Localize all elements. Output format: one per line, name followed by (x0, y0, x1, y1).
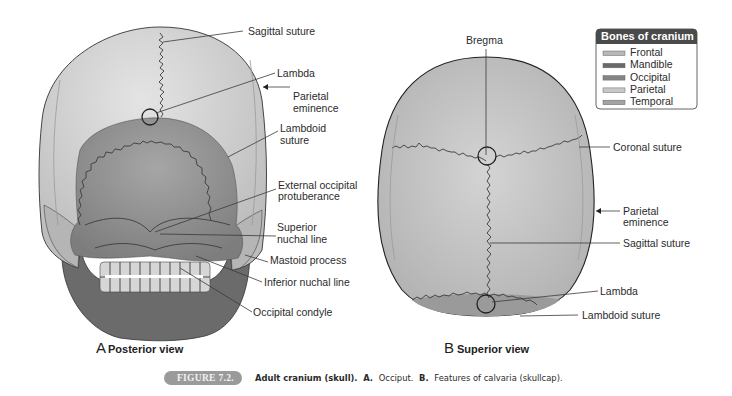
caption-text: Adult cranium (skull). A. Occiput. B. Fe… (255, 373, 563, 383)
label-inferior-nuchal-line: Inferior nuchal line (264, 276, 350, 288)
label-parietal-eminence-a-line2: eminence (293, 102, 339, 114)
label-occipital-condyle: Occipital condyle (253, 306, 333, 318)
figure-canvas: Sagittal suture Lambda Parietal eminence… (0, 0, 732, 396)
caption-title: Adult cranium (skull). (255, 373, 358, 383)
label-lambdoid-suture-b: Lambdoid suture (582, 309, 660, 321)
legend-swatch-occipital (603, 76, 625, 81)
caption-part-a-text: Occiput. (379, 373, 414, 383)
legend-title: Bones of cranium (601, 30, 694, 42)
label-parietal-eminence-a-line1: Parietal (293, 90, 329, 102)
label-lambdoid-suture-a-line1: Lambdoid (280, 122, 326, 134)
legend-swatch-temporal (603, 100, 625, 105)
legend-item-parietal: Parietal (630, 83, 666, 95)
legend-swatch-parietal (603, 88, 625, 93)
figure-caption: FIGURE 7.2. Adult cranium (skull). A. Oc… (164, 371, 563, 385)
posterior-view-illustration (39, 27, 267, 341)
legend-item-frontal: Frontal (630, 46, 663, 58)
label-bregma: Bregma (466, 34, 503, 46)
label-sagittal-suture-b: Sagittal suture (623, 237, 690, 249)
label-external-occipital-protuberance-line2: protuberance (278, 190, 340, 202)
label-superior-nuchal-line-line2: nuchal line (277, 233, 327, 245)
figure-number: FIGURE 7.2. (177, 373, 234, 383)
label-parietal-eminence-b-line2: eminence (623, 216, 669, 228)
panel-a-title: Posterior view (108, 343, 184, 355)
legend-swatch-mandible (603, 63, 625, 68)
panel-a-letter: A (96, 339, 106, 356)
legend-item-temporal: Temporal (630, 95, 673, 107)
teeth (100, 262, 210, 292)
label-lambda-a: Lambda (277, 67, 315, 79)
legend-item-occipital: Occipital (630, 71, 670, 83)
label-superior-nuchal-line-line1: Superior (277, 221, 317, 233)
label-coronal-suture: Coronal suture (613, 141, 682, 153)
panel-b-letter: B (444, 339, 454, 356)
panel-b-title: Superior view (457, 343, 530, 355)
caption-part-b-text: Features of calvaria (skullcap). (434, 373, 562, 383)
legend-box: Bones of cranium FrontalMandibleOccipita… (596, 29, 697, 109)
legend-item-mandible: Mandible (630, 58, 673, 70)
label-mastoid-process: Mastoid process (270, 254, 346, 266)
label-sagittal-suture-a: Sagittal suture (248, 25, 315, 37)
legend-swatch-frontal (603, 51, 625, 56)
caption-part-a-label: A. (363, 373, 373, 383)
label-lambda-b: Lambda (600, 285, 638, 297)
caption-part-b-label: B. (419, 373, 429, 383)
label-lambdoid-suture-a-line2: suture (280, 134, 309, 146)
